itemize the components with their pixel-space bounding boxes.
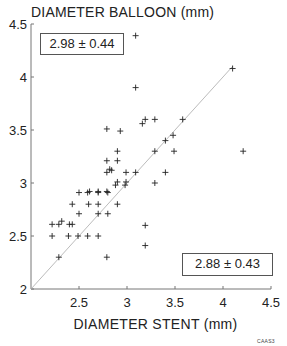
data-point-plus-marker: [170, 132, 176, 138]
y-tick-label: 3.5: [9, 123, 27, 138]
data-point-plus-marker: [104, 188, 110, 194]
data-point-plus-marker: [133, 33, 139, 39]
data-point-plus-marker: [104, 126, 110, 132]
data-point-plus-marker: [65, 233, 71, 239]
x-tick-label: 4: [219, 295, 226, 310]
data-point-plus-marker: [56, 221, 62, 227]
data-point-plus-marker: [139, 121, 145, 127]
balloon-mean-sd-box: 2.98 ± 0.44: [40, 33, 124, 55]
data-point-plus-marker: [133, 85, 139, 91]
data-point-plus-marker: [133, 169, 139, 175]
x-tick-label: 3.5: [166, 295, 184, 310]
data-point-plus-marker: [95, 190, 101, 196]
data-point-plus-marker: [152, 116, 158, 122]
data-point-plus-marker: [95, 201, 101, 207]
data-point-plus-marker: [76, 211, 82, 217]
figure-code: CAAS3: [257, 338, 275, 344]
x-tick-label: 3: [123, 295, 130, 310]
data-points: [49, 33, 246, 261]
data-point-plus-marker: [105, 190, 111, 196]
data-point-plus-marker: [105, 211, 111, 217]
data-point-plus-marker: [114, 201, 120, 207]
data-point-plus-marker: [104, 254, 110, 260]
data-point-plus-marker: [59, 218, 65, 224]
data-point-plus-marker: [76, 190, 82, 196]
x-axis-title: DIAMETER STENT (mm): [0, 316, 287, 332]
data-point-plus-marker: [162, 169, 168, 175]
data-point-plus-marker: [152, 180, 158, 186]
data-point-plus-marker: [123, 169, 129, 175]
data-point-plus-marker: [240, 148, 246, 154]
y-tick-label: 2.5: [9, 229, 27, 244]
x-tick-label: 4.5: [262, 295, 280, 310]
y-tick-label: 2: [20, 282, 27, 297]
data-point-plus-marker: [56, 254, 62, 260]
data-point-plus-marker: [123, 179, 129, 185]
data-point-plus-marker: [95, 233, 101, 239]
data-point-plus-marker: [85, 233, 91, 239]
data-point-plus-marker: [114, 148, 120, 154]
data-point-plus-marker: [114, 158, 120, 164]
data-point-plus-marker: [69, 221, 75, 227]
data-point-plus-marker: [69, 201, 75, 207]
y-tick-label: 4: [20, 70, 27, 85]
data-point-plus-marker: [230, 66, 236, 72]
data-point-plus-marker: [49, 221, 55, 227]
stent-mean-sd-box: 2.88 ± 0.43: [182, 253, 273, 276]
data-point-plus-marker: [75, 233, 81, 239]
data-point-plus-marker: [95, 211, 101, 217]
data-point-plus-marker: [117, 128, 123, 134]
data-point-plus-marker: [152, 148, 158, 154]
data-point-plus-marker: [142, 116, 148, 122]
data-point-plus-marker: [49, 233, 55, 239]
y-tick-label: 3: [20, 176, 27, 191]
y-tick-label: 4.5: [9, 17, 27, 32]
data-point-plus-marker: [104, 158, 110, 164]
data-point-plus-marker: [142, 243, 148, 249]
data-point-plus-marker: [142, 222, 148, 228]
data-point-plus-marker: [171, 148, 177, 154]
y-axis-title: DIAMETER BALLOON (mm): [31, 4, 214, 20]
data-point-plus-marker: [180, 116, 186, 122]
data-point-plus-marker: [86, 201, 92, 207]
x-tick-label: 2.5: [70, 295, 88, 310]
